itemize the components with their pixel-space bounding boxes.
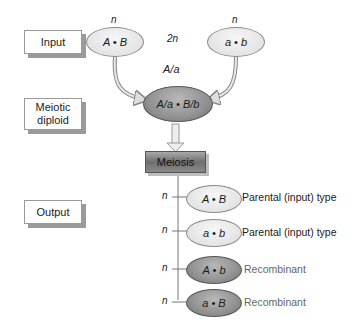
output-gamete-Ab: A • b	[186, 256, 242, 284]
meiosis-box: Meiosis	[145, 151, 206, 173]
meiosis-label: Meiosis	[157, 156, 194, 168]
meiotic-diploid-label: Meiotic diploid	[24, 98, 82, 130]
output-type-label: Recombinant	[244, 296, 306, 308]
input-ploidy: n	[232, 14, 238, 25]
input-ploidy: n	[111, 14, 117, 25]
genotype-text: a • b	[203, 227, 225, 239]
output-ploidy: n	[162, 295, 168, 306]
meiotic-diploid-cell: A/a • B/b	[143, 86, 213, 122]
output-gamete-aB: a • B	[186, 289, 242, 317]
input-arrow-right	[208, 57, 236, 100]
output-gamete-ab: a • b	[186, 219, 242, 247]
output-gamete-AB: A • B	[186, 185, 242, 213]
output-ploidy: n	[162, 262, 168, 273]
diploid-ploidy: 2n	[167, 33, 178, 44]
input-gamete-AB: A • B	[86, 27, 144, 57]
genotype-text: A • B	[103, 36, 127, 48]
input-label: Input	[24, 30, 82, 54]
genotype-text: A • B	[202, 193, 226, 205]
output-type-label: Parental (input) type	[242, 226, 337, 238]
genotype-text: a • B	[202, 297, 225, 309]
output-ploidy: n	[162, 190, 168, 201]
genotype-text: A • b	[202, 264, 225, 276]
input-gamete-ab: a • b	[207, 27, 265, 57]
output-label: Output	[24, 200, 82, 224]
input-arrow-left	[115, 57, 146, 100]
output-ploidy: n	[162, 224, 168, 235]
genotype-text: a • b	[225, 36, 247, 48]
intermediate-label: A/a	[163, 63, 180, 75]
genotype-text: A/a • B/b	[157, 98, 200, 110]
output-type-label: Parental (input) type	[242, 191, 337, 203]
output-type-label: Recombinant	[244, 263, 306, 275]
down-arrow	[172, 124, 179, 144]
